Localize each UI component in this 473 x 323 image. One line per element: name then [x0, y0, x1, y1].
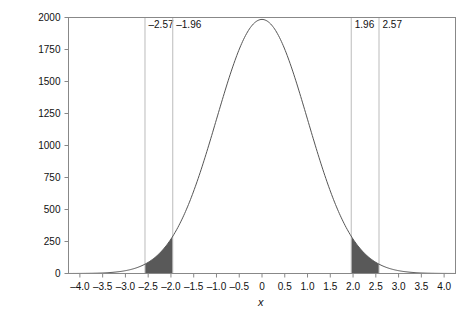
x-tick-label: –1.0 [207, 281, 227, 292]
y-tick-label: 0 [55, 268, 61, 279]
x-tick-label: 1.0 [301, 281, 315, 292]
x-tick-label: –4.0 [70, 281, 90, 292]
x-tick-label: 0 [259, 281, 265, 292]
x-axis-title: x [258, 296, 264, 308]
reference-line-label: –2.57 [148, 19, 173, 30]
x-tick-label: –2.5 [138, 281, 158, 292]
x-tick-label: –3.0 [116, 281, 136, 292]
y-tick-label: 1750 [38, 44, 61, 55]
reference-line-label: 2.57 [383, 19, 403, 30]
y-tick-label: 1000 [38, 140, 61, 151]
reference-line-label: –1.96 [176, 19, 201, 30]
y-tick-label: 750 [44, 172, 61, 183]
x-tick-label: –0.5 [230, 281, 250, 292]
x-tick-label: 2.0 [346, 281, 360, 292]
y-tick-label: 1500 [38, 76, 61, 87]
x-tick-label: 0.5 [278, 281, 292, 292]
x-tick-label: 1.5 [323, 281, 337, 292]
y-tick-label: 500 [44, 204, 61, 215]
x-tick-label: 3.5 [414, 281, 428, 292]
distribution-curve [69, 19, 456, 273]
y-tick-label: 2000 [38, 12, 61, 23]
y-tick-label: 250 [44, 236, 61, 247]
chart-canvas: –2.57–1.961.962.570250500750100012501500… [0, 0, 473, 323]
x-tick-label: –2.0 [161, 281, 181, 292]
reference-line-label: 1.96 [355, 19, 375, 30]
plot-frame [69, 18, 456, 274]
y-axis-title: Count [2, 0, 18, 32]
x-tick-label: 2.5 [369, 281, 383, 292]
x-tick-label: 4.0 [437, 281, 451, 292]
x-tick-label: –1.5 [184, 281, 204, 292]
x-tick-label: –3.5 [93, 281, 113, 292]
y-tick-label: 1250 [38, 108, 61, 119]
x-tick-label: 3.0 [392, 281, 406, 292]
normal-distribution-chart: –2.57–1.961.962.570250500750100012501500… [0, 0, 473, 323]
